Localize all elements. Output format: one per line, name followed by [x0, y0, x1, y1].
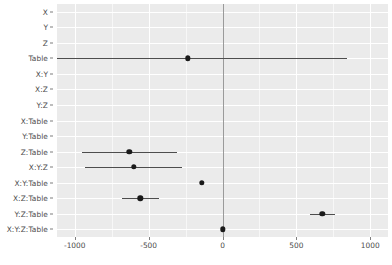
- y-tick-label: X:Z:Table: [13, 194, 48, 203]
- x-tick-label: -500: [140, 241, 157, 250]
- y-tick-label: Z: [43, 38, 48, 47]
- y-tick-mark: [50, 73, 53, 74]
- y-tick-mark: [50, 120, 53, 121]
- data-point: [127, 149, 132, 154]
- x-tick-label: -1000: [64, 241, 85, 250]
- x-tick-mark: [370, 237, 371, 240]
- y-tick-label: X:Y:Z:Table: [7, 225, 48, 234]
- y-tick-mark: [50, 151, 53, 152]
- y-tick-mark: [50, 104, 53, 105]
- coefficient-dot-plot: XYZTableX:YX:ZY:ZX:TableY:TableZ:TableX:…: [0, 0, 392, 265]
- x-tick-label: 500: [289, 241, 303, 250]
- y-tick-mark: [50, 182, 53, 183]
- y-tick-mark: [50, 167, 53, 168]
- data-point: [185, 56, 190, 61]
- y-tick-label: X:Y:Table: [14, 178, 48, 187]
- x-tick-mark: [296, 237, 297, 240]
- y-tick-label: X:Y: [36, 69, 48, 78]
- y-tick-label: Z:Table: [21, 147, 48, 156]
- data-point: [320, 211, 325, 216]
- y-tick-label: Table: [28, 54, 48, 63]
- data-point: [138, 195, 143, 200]
- data-point: [199, 180, 204, 185]
- y-tick-mark: [50, 136, 53, 137]
- y-tick-mark: [50, 58, 53, 59]
- y-tick-mark: [50, 213, 53, 214]
- plot-panel: [57, 4, 388, 237]
- y-tick-label: Y: [43, 23, 48, 32]
- x-axis: -1000-50005001000: [57, 237, 388, 257]
- y-tick-label: Y:Z:Table: [14, 209, 48, 218]
- y-tick-mark: [50, 11, 53, 12]
- errorbar: [57, 58, 347, 59]
- y-tick-label: Y:Z: [37, 100, 48, 109]
- zero-reference-line: [223, 4, 224, 237]
- y-tick-label: X:Z: [35, 85, 48, 94]
- y-tick-label: X: [43, 7, 48, 16]
- y-tick-mark: [50, 27, 53, 28]
- y-tick-label: X:Table: [21, 116, 48, 125]
- data-point: [131, 164, 136, 169]
- y-tick-mark: [50, 42, 53, 43]
- x-tick-mark: [149, 237, 150, 240]
- x-tick-label: 1000: [361, 241, 380, 250]
- y-tick-mark: [50, 229, 53, 230]
- y-tick-mark: [50, 198, 53, 199]
- y-tick-mark: [50, 89, 53, 90]
- x-tick-mark: [75, 237, 76, 240]
- data-point: [220, 227, 225, 232]
- x-tick-label: 0: [220, 241, 225, 250]
- y-tick-label: Y:Table: [22, 132, 48, 141]
- y-axis: XYZTableX:YX:ZY:ZX:TableY:TableZ:TableX:…: [0, 4, 53, 237]
- x-tick-mark: [223, 237, 224, 240]
- y-tick-label: X:Y:Z: [29, 163, 48, 172]
